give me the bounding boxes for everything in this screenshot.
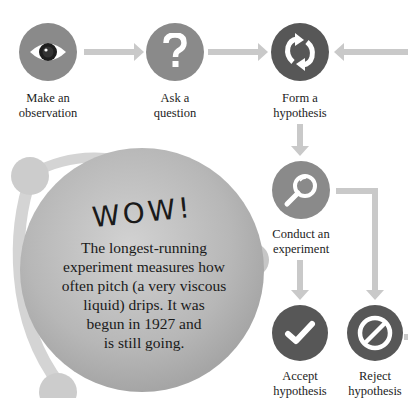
step-hypothesis-label: Form a hypothesis bbox=[256, 91, 344, 121]
step-hypothesis-node[interactable] bbox=[271, 23, 329, 81]
arrow-question-to-hypothesis bbox=[208, 49, 260, 55]
step-experiment-node[interactable] bbox=[272, 161, 330, 219]
prohibited-icon bbox=[356, 314, 394, 352]
callout-line: is still going. bbox=[44, 333, 244, 352]
arrowhead-down-icon bbox=[291, 146, 309, 156]
callout-line: experiment measures how bbox=[44, 257, 244, 276]
arrowhead-left-icon bbox=[334, 43, 344, 61]
arrow-observation-to-question bbox=[84, 49, 136, 55]
step-observation-label: Make an observation bbox=[0, 91, 96, 121]
arrow-hypothesis-to-experiment bbox=[297, 124, 303, 148]
arrow-reject-outgoing bbox=[404, 334, 408, 340]
step-question-node[interactable] bbox=[146, 23, 204, 81]
step-reject-node[interactable] bbox=[347, 305, 403, 361]
callout-line: begun in 1927 and bbox=[44, 314, 244, 333]
step-experiment-label: Conduct an experiment bbox=[256, 227, 346, 257]
callout-line: liquid) drips. It was bbox=[44, 295, 244, 314]
step-accept-node[interactable] bbox=[272, 305, 328, 361]
arrowhead-right-icon bbox=[258, 43, 268, 61]
eye-icon bbox=[28, 39, 68, 65]
callout-line: often pitch (a very viscous bbox=[44, 276, 244, 295]
callout-body: The longest-running experiment measures … bbox=[44, 238, 244, 352]
arrow-experiment-to-reject-vertical bbox=[372, 188, 378, 292]
checkmark-icon bbox=[284, 320, 316, 346]
arrowhead-down-icon bbox=[291, 290, 309, 300]
step-observation-node[interactable] bbox=[19, 23, 77, 81]
step-accept-label: Accept hypothesis bbox=[260, 369, 340, 398]
question-mark-icon bbox=[163, 33, 187, 71]
refresh-cycle-icon bbox=[282, 32, 318, 72]
arrow-experiment-to-accept bbox=[297, 260, 303, 292]
arrow-return-to-hypothesis bbox=[344, 49, 408, 55]
magnifier-icon bbox=[282, 171, 320, 209]
arrowhead-down-icon bbox=[366, 290, 384, 300]
step-question-label: Ask a question bbox=[135, 91, 215, 121]
callout-line: The longest-running bbox=[44, 238, 244, 257]
arrowhead-right-icon bbox=[134, 43, 144, 61]
step-reject-label: Reject hypothesis bbox=[335, 369, 408, 398]
